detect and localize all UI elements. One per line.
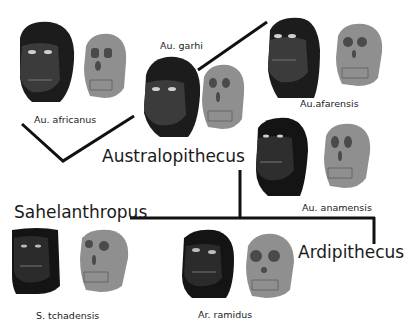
genus-label-ardipithecus: Ardipithecus: [298, 242, 404, 262]
skull-icon: [246, 234, 294, 298]
au-garhi-figure: [140, 55, 258, 145]
species-label-s-tchadensis: S. tchadensis: [36, 310, 99, 321]
s-tchadensis-figure: [8, 226, 132, 302]
au-africanus-figure: [14, 20, 132, 110]
genus-label-australopithecus: Australopithecus: [102, 146, 245, 166]
head-icon: [268, 18, 320, 98]
ar-ramidus-figure: [178, 228, 308, 306]
head-icon: [144, 57, 200, 137]
head-icon: [256, 118, 308, 196]
skull-icon: [324, 124, 370, 188]
skull-icon: [80, 230, 128, 292]
skull-icon: [336, 24, 382, 86]
species-label-au-afarensis: Au.afarensis: [300, 98, 359, 109]
head-icon: [12, 228, 60, 294]
skull-icon: [202, 65, 244, 129]
genus-label-sahelanthropus: Sahelanthropus: [14, 202, 147, 222]
species-label-ar-ramidus: Ar. ramidus: [198, 309, 252, 320]
head-icon: [20, 22, 74, 102]
skull-icon: [84, 34, 126, 98]
au-afarensis-figure: [264, 16, 400, 102]
au-anamensis-figure: [252, 116, 400, 206]
species-label-au-garhi: Au. garhi: [160, 40, 203, 51]
head-icon: [182, 230, 234, 298]
species-label-au-africanus: Au. africanus: [34, 114, 96, 125]
species-label-au-anamensis: Au. anamensis: [302, 202, 372, 213]
